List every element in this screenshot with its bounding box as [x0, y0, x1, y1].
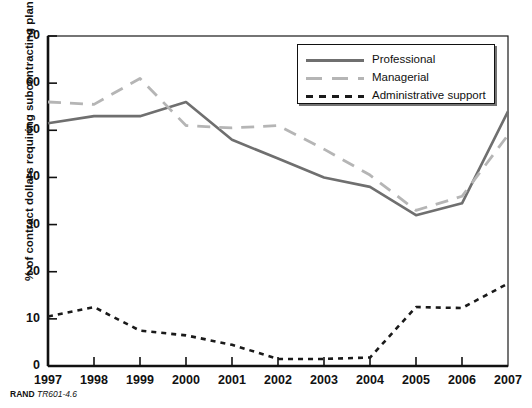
- x-tick-marks: [94, 357, 462, 366]
- data-series-group: [48, 78, 508, 359]
- series-line-administrative-support: [48, 284, 508, 359]
- legend-label-managerial: Managerial: [372, 72, 429, 84]
- source-organization: RAND: [10, 389, 35, 399]
- legend-swatch-dashed-icon: [306, 77, 364, 80]
- y-tick-label: 20: [14, 264, 40, 278]
- y-tick-label: 0: [14, 358, 40, 372]
- legend-item-professional: Professional: [306, 51, 435, 69]
- legend-label-professional: Professional: [372, 54, 435, 66]
- y-tick-label: 50: [14, 122, 40, 136]
- chart-legend: Professional Managerial Administrative s…: [297, 44, 495, 104]
- legend-label-administrative-support: Administrative support: [372, 90, 486, 102]
- series-line-professional: [48, 102, 508, 215]
- legend-swatch-dotted-icon: [306, 95, 364, 98]
- x-tick-label: 2007: [478, 373, 532, 387]
- legend-item-managerial: Managerial: [306, 69, 429, 87]
- source-identifier: TR601-4.6: [37, 389, 77, 399]
- y-tick-label: 10: [14, 311, 40, 325]
- figure-container: % of contract dollars requiring subcontr…: [0, 0, 532, 408]
- y-tick-label: 40: [14, 169, 40, 183]
- y-tick-label: 60: [14, 75, 40, 89]
- figure-source-note: RAND TR601-4.6: [10, 389, 77, 399]
- y-tick-label: 70: [14, 28, 40, 42]
- legend-item-administrative-support: Administrative support: [306, 87, 486, 105]
- y-tick-label: 30: [14, 217, 40, 231]
- legend-swatch-solid-icon: [306, 59, 364, 62]
